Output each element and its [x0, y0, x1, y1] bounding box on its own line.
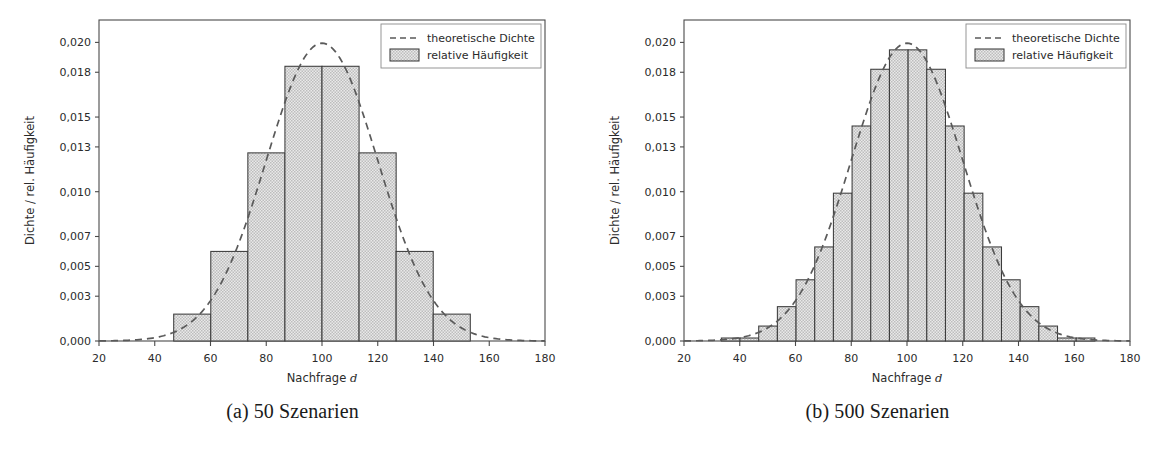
chart-b: 0,0000,0030,0050,0070,0100,0130,0150,018…	[585, 0, 1170, 400]
y-tick-label: 0,015	[60, 111, 92, 124]
x-tick-label: 40	[733, 352, 747, 365]
x-tick-label: 20	[677, 352, 691, 365]
chart-legend: theoretische Dichterelative Häufigkeit	[966, 24, 1126, 68]
x-axis-title: Nachfrage d	[287, 371, 358, 385]
y-tick-label: 0,003	[645, 290, 677, 303]
y-axis-title: Dichte / rel. Häufigkeit	[608, 115, 622, 245]
x-axis-title: Nachfrage d	[872, 371, 943, 385]
histogram-bar	[796, 280, 815, 341]
legend-filled-box-icon	[390, 49, 419, 61]
histogram-bar	[285, 66, 322, 341]
histogram-bars	[174, 66, 471, 341]
y-axis: 0,0000,0030,0050,0070,0100,0130,0150,018…	[60, 36, 100, 348]
figure-panel-b: 0,0000,0030,0050,0070,0100,0130,0150,018…	[585, 0, 1170, 472]
y-tick-label: 0,013	[645, 141, 677, 154]
histogram-bar	[908, 50, 927, 341]
y-tick-label: 0,020	[60, 36, 92, 49]
histogram-bar	[1058, 338, 1077, 341]
histogram-bar	[433, 314, 470, 341]
histogram-bar	[815, 247, 834, 341]
histogram-bar	[359, 153, 396, 341]
histogram-bar	[889, 50, 908, 341]
caption-a: (a) 50 Szenarien	[0, 400, 585, 423]
y-tick-label: 0,000	[60, 335, 92, 348]
histogram-bar	[852, 126, 871, 341]
x-tick-label: 60	[789, 352, 803, 365]
chart-legend: theoretische Dichterelative Häufigkeit	[381, 24, 541, 68]
y-tick-label: 0,013	[60, 141, 92, 154]
x-tick-label: 180	[535, 352, 556, 365]
y-tick-label: 0,020	[645, 36, 677, 49]
y-tick-label: 0,007	[60, 230, 92, 243]
x-tick-label: 120	[952, 352, 973, 365]
histogram-bars	[721, 50, 1095, 341]
legend-label-density: theoretische Dichte	[427, 32, 535, 45]
histogram-bar	[1001, 280, 1020, 341]
x-tick-label: 80	[259, 352, 273, 365]
histogram-bar	[211, 251, 248, 341]
y-tick-label: 0,005	[60, 260, 92, 273]
histogram-bar	[322, 66, 359, 341]
x-tick-label: 160	[1064, 352, 1085, 365]
x-axis: 20406080100120140160180	[677, 341, 1141, 365]
chart-a: 0,0000,0030,0050,0070,0100,0130,0150,018…	[0, 0, 585, 400]
x-tick-label: 120	[367, 352, 388, 365]
legend-label-frequency: relative Häufigkeit	[427, 49, 529, 62]
x-tick-label: 20	[92, 352, 106, 365]
y-tick-label: 0,010	[60, 186, 92, 199]
figure-container: 0,0000,0030,0050,0070,0100,0130,0150,018…	[0, 0, 1170, 472]
histogram-bar	[174, 314, 211, 341]
legend-filled-box-icon	[975, 49, 1004, 61]
y-tick-label: 0,007	[645, 230, 677, 243]
x-tick-label: 40	[148, 352, 162, 365]
legend-label-density: theoretische Dichte	[1012, 32, 1120, 45]
x-tick-label: 80	[844, 352, 858, 365]
histogram-bar	[833, 193, 852, 341]
y-tick-label: 0,010	[645, 186, 677, 199]
histogram-bar	[927, 69, 946, 341]
y-tick-label: 0,015	[645, 111, 677, 124]
y-tick-label: 0,005	[645, 260, 677, 273]
histogram-bar	[1020, 307, 1039, 341]
x-tick-label: 100	[897, 352, 918, 365]
caption-b: (b) 500 Szenarien	[585, 400, 1170, 423]
y-tick-label: 0,018	[645, 66, 677, 79]
x-tick-label: 140	[423, 352, 444, 365]
y-axis: 0,0000,0030,0050,0070,0100,0130,0150,018…	[645, 36, 685, 348]
y-axis-title: Dichte / rel. Häufigkeit	[23, 115, 37, 245]
chart-b-svg: 0,0000,0030,0050,0070,0100,0130,0150,018…	[585, 0, 1170, 400]
x-tick-label: 140	[1008, 352, 1029, 365]
histogram-bar	[871, 69, 890, 341]
x-tick-label: 100	[312, 352, 333, 365]
histogram-bar	[983, 247, 1002, 341]
histogram-bar	[248, 153, 285, 341]
y-tick-label: 0,000	[645, 335, 677, 348]
y-tick-label: 0,003	[60, 290, 92, 303]
x-tick-label: 60	[204, 352, 218, 365]
histogram-bar	[740, 338, 759, 341]
legend-label-frequency: relative Häufigkeit	[1012, 49, 1114, 62]
x-tick-label: 180	[1120, 352, 1141, 365]
x-axis: 20406080100120140160180	[92, 341, 556, 365]
x-tick-label: 160	[479, 352, 500, 365]
chart-a-svg: 0,0000,0030,0050,0070,0100,0130,0150,018…	[0, 0, 585, 400]
figure-panel-a: 0,0000,0030,0050,0070,0100,0130,0150,018…	[0, 0, 585, 472]
y-tick-label: 0,018	[60, 66, 92, 79]
